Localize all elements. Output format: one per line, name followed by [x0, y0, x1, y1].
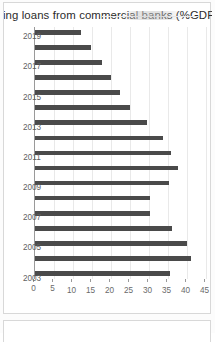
y-tick-mark — [72, 279, 73, 282]
y-axis-tick: 15 — [86, 279, 96, 309]
x-axis-tick — [4, 45, 34, 50]
y-tick-label: 45 — [200, 286, 209, 295]
x-axis-tick: 2015 — [4, 90, 34, 95]
y-axis-tick: 25 — [124, 279, 134, 309]
x-axis-tick: 2019 — [4, 30, 34, 35]
y-tick-label: 0 — [32, 284, 37, 293]
y-tick-label: 25 — [124, 286, 133, 295]
bar — [35, 226, 172, 231]
bar — [35, 196, 150, 201]
x-axis-ticks: 201920172015201320112009200720052003 — [4, 27, 34, 279]
y-tick-mark — [91, 279, 92, 282]
y-tick-mark — [205, 279, 206, 282]
bar — [35, 120, 147, 125]
y-axis-tick: 35 — [162, 279, 172, 309]
x-tick-label: 2005 — [23, 243, 41, 252]
y-tick-mark — [148, 279, 149, 282]
y-tick-label: 10 — [67, 286, 76, 295]
y-tick-label: 35 — [162, 286, 171, 295]
x-tick-label: 2003 — [23, 274, 41, 283]
x-tick-label: 2013 — [23, 123, 41, 132]
y-axis-ticks: 051015202530354045 — [34, 279, 206, 309]
x-tick-label: 2009 — [23, 183, 41, 192]
x-tick-label: 2017 — [23, 62, 41, 71]
plot-area — [34, 27, 206, 279]
x-axis-tick: 2017 — [4, 60, 34, 65]
chart-stage: Outstanding loans from commercial banks … — [4, 3, 212, 315]
x-axis-tick: 2003 — [4, 271, 34, 276]
bar — [35, 271, 170, 276]
y-tick-label: 30 — [143, 286, 152, 295]
x-axis-tick — [4, 226, 34, 231]
y-axis-tick: 40 — [181, 279, 191, 309]
bar — [35, 45, 91, 50]
y-axis-tick: 10 — [67, 279, 77, 309]
y-tick-label: 5 — [51, 284, 56, 293]
x-axis-tick — [4, 75, 34, 80]
faint-artifact-smudge — [122, 11, 184, 20]
bar — [35, 75, 111, 80]
y-tick-mark — [129, 279, 130, 282]
x-tick-label: 2019 — [23, 32, 41, 41]
y-tick-label: 20 — [105, 286, 114, 295]
y-axis-tick: 20 — [105, 279, 115, 309]
bar — [35, 60, 102, 65]
bar — [35, 30, 81, 35]
bar — [35, 151, 171, 156]
y-axis-tick: 45 — [200, 279, 210, 309]
x-tick-label: 2011 — [23, 153, 41, 162]
bar — [35, 136, 163, 141]
y-tick-mark — [53, 279, 54, 282]
bar — [35, 241, 187, 246]
chart-card: Outstanding loans from commercial banks … — [3, 2, 211, 314]
chart-rotation-wrapper: Outstanding loans from commercial banks … — [4, 3, 212, 315]
bar — [35, 181, 169, 186]
bar — [35, 166, 178, 171]
x-axis-tick — [4, 166, 34, 171]
y-tick-mark — [167, 279, 168, 282]
x-axis-tick — [4, 105, 34, 110]
y-tick-label: 15 — [86, 286, 95, 295]
x-axis-tick: 2009 — [4, 181, 34, 186]
y-axis-tick: 30 — [143, 279, 153, 309]
bar — [35, 105, 130, 110]
y-tick-mark — [110, 279, 111, 282]
x-axis-tick: 2013 — [4, 120, 34, 125]
y-axis-tick: 0 — [29, 279, 39, 309]
bar-series — [35, 27, 206, 279]
bar — [35, 256, 191, 261]
bar — [35, 90, 120, 95]
x-tick-label: 2015 — [23, 93, 41, 102]
x-axis-tick — [4, 136, 34, 141]
bar — [35, 211, 150, 216]
x-axis-tick — [4, 256, 34, 261]
y-tick-mark — [186, 279, 187, 282]
x-axis-tick: 2007 — [4, 211, 34, 216]
x-axis-tick: 2005 — [4, 241, 34, 246]
x-axis-tick — [4, 196, 34, 201]
x-tick-label: 2007 — [23, 213, 41, 222]
x-axis-tick: 2011 — [4, 151, 34, 156]
y-tick-label: 40 — [181, 286, 190, 295]
next-card — [3, 320, 211, 342]
gridline — [206, 27, 207, 279]
y-axis-tick: 5 — [48, 279, 58, 309]
